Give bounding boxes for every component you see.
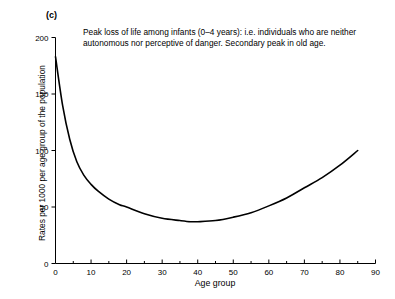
axes-group: 0501001502000102030405060708090 xyxy=(35,34,380,277)
x-tick-label-20: 20 xyxy=(122,268,131,277)
y-tick-label-0: 0 xyxy=(44,260,49,269)
x-tick-label-80: 80 xyxy=(335,268,344,277)
x-tick-label-0: 0 xyxy=(53,268,58,277)
y-tick-label-50: 50 xyxy=(40,203,49,212)
x-tick-label-50: 50 xyxy=(229,268,238,277)
x-tick-label-40: 40 xyxy=(193,268,202,277)
y-tick-label-150: 150 xyxy=(35,90,49,99)
figure-panel-c: (c) Peak loss of life among infants (0–4… xyxy=(0,0,395,299)
y-tick-label-100: 100 xyxy=(35,147,49,156)
y-tick-label-200: 200 xyxy=(35,34,49,43)
x-tick-label-10: 10 xyxy=(87,268,96,277)
chart-plot-area: 0501001502000102030405060708090 xyxy=(0,0,395,299)
x-tick-label-90: 90 xyxy=(371,268,380,277)
data-curve-group xyxy=(56,57,358,222)
x-tick-label-70: 70 xyxy=(300,268,309,277)
x-tick-label-60: 60 xyxy=(264,268,273,277)
x-tick-label-30: 30 xyxy=(158,268,167,277)
mortality-rate-curve xyxy=(56,57,358,222)
